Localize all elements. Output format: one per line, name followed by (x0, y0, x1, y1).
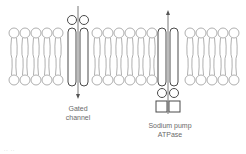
lipid-tail (105, 38, 106, 75)
lipid-tail (225, 38, 226, 75)
lipid-head-bottom (229, 75, 239, 85)
lipid (185, 28, 195, 85)
lipid-tail (138, 38, 139, 75)
pump-atpase-box-left (156, 101, 167, 112)
lipid-head-bottom (207, 75, 217, 85)
lipid (103, 28, 113, 85)
lipid-tail (154, 38, 155, 75)
lipid-head-bottom (92, 75, 102, 85)
lipid-tail (236, 38, 237, 75)
lipid-head-bottom (103, 75, 113, 85)
lipid-tail (16, 38, 17, 75)
lipid-tail (127, 38, 128, 75)
lipid-head-bottom (147, 75, 157, 85)
lipid (20, 28, 30, 85)
lipid-tail (11, 38, 12, 75)
lipid-tail (44, 38, 45, 75)
lipid-tail (33, 38, 34, 75)
arrow-up-icon (166, 10, 170, 15)
pump-subunit-left (158, 28, 166, 86)
lipid-tail (110, 38, 111, 75)
lipid-tail (60, 38, 61, 75)
lipid-head-bottom (31, 75, 41, 85)
lipid-tail (187, 38, 188, 75)
lipid (114, 28, 124, 85)
channel-gate-head-right (80, 16, 89, 25)
lipid-tail (121, 38, 122, 75)
lipid-head-top (229, 28, 239, 38)
lipid-tail (192, 38, 193, 75)
lipid-tail (99, 38, 100, 75)
lipid-tail (38, 38, 39, 75)
lipid-head-bottom (114, 75, 124, 85)
lipid-head-bottom (218, 75, 228, 85)
lipid (229, 28, 239, 85)
lipid-head-bottom (196, 75, 206, 85)
lipid-head-bottom (136, 75, 146, 85)
lipid-bilayer (9, 28, 239, 85)
sodium-pump-label-line1: Sodium pump (140, 121, 200, 130)
gated-channel-label: Gated channel (58, 104, 98, 122)
lipid-tail (116, 38, 117, 75)
lipid-tail (94, 38, 95, 75)
lipid (136, 28, 146, 85)
lipid (207, 28, 217, 85)
pump-subunit-right (170, 28, 178, 86)
lipid-head-bottom (185, 75, 195, 85)
arrow-down-icon (76, 94, 80, 99)
lipid (125, 28, 135, 85)
lipid-tail (214, 38, 215, 75)
lipid-head-top (114, 28, 124, 38)
channel-subunit-left (68, 28, 76, 86)
channel-subunit-right (80, 28, 88, 86)
lipid-head-top (207, 28, 217, 38)
lipid (92, 28, 102, 85)
lipid-tail (132, 38, 133, 75)
corner-mark: ·· ·· (4, 148, 15, 153)
lipid-tail (203, 38, 204, 75)
lipid-head-top (125, 28, 135, 38)
lipid-head-top (42, 28, 52, 38)
lipid-head-bottom (42, 75, 52, 85)
lipid-tail (198, 38, 199, 75)
lipid (218, 28, 228, 85)
lipid-head-top (196, 28, 206, 38)
lipid-tail (220, 38, 221, 75)
pump-head-left (158, 89, 167, 98)
lipid-head-top (218, 28, 228, 38)
sodium-pump-label-line2: ATPase (140, 130, 200, 139)
membrane-diagram (0, 0, 246, 154)
lipid-tail (209, 38, 210, 75)
channel-gate-head-left (68, 16, 77, 25)
sodium-pump-label: Sodium pump ATPase (140, 121, 200, 139)
lipid-head-bottom (20, 75, 30, 85)
lipid-head-top (136, 28, 146, 38)
lipid (9, 28, 19, 85)
lipid-head-top (31, 28, 41, 38)
lipid-head-top (147, 28, 157, 38)
lipid-tail (149, 38, 150, 75)
lipid-head-top (92, 28, 102, 38)
lipid-head-top (103, 28, 113, 38)
lipid-head-bottom (9, 75, 19, 85)
pump-head-right (170, 89, 179, 98)
gated-channel-label-line1: Gated (58, 104, 98, 113)
lipid-head-top (185, 28, 195, 38)
pump-atpase-box-right (169, 101, 180, 112)
lipid-tail (49, 38, 50, 75)
lipid (31, 28, 41, 85)
lipid-head-bottom (53, 75, 63, 85)
lipid (196, 28, 206, 85)
lipid (147, 28, 157, 85)
lipid-head-bottom (125, 75, 135, 85)
lipid-tail (55, 38, 56, 75)
gated-channel-label-line2: channel (58, 113, 98, 122)
lipid (42, 28, 52, 85)
lipid-tail (231, 38, 232, 75)
lipid-tail (22, 38, 23, 75)
lipid-head-top (9, 28, 19, 38)
lipid-tail (27, 38, 28, 75)
lipid-head-top (53, 28, 63, 38)
lipid-head-top (20, 28, 30, 38)
lipid (53, 28, 63, 85)
